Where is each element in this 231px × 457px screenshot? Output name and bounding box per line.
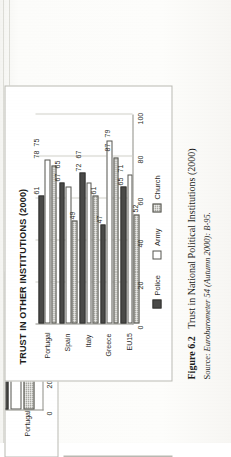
chart-legend: Police Army Church [152,175,161,308]
bar-army-spain [65,186,71,323]
value-label-police-eu15: 65 [116,177,123,185]
bar-church-spain [71,220,77,323]
value-label-army-eu15: 71 [116,164,123,172]
bar-police-spain [59,182,65,323]
caption-figure-number: Figure 6.2 [185,336,196,379]
value-label-church-italy: 61 [89,186,96,194]
bar-army-eu15 [127,174,133,323]
category-label-portugal: Portugal [43,332,50,358]
bar-church-portugal [51,165,57,323]
axis-tick-100: 100 [136,112,143,124]
bar-police-italy [79,172,85,323]
category-label-italy: Italy [84,334,91,347]
legend-item-police: Police [152,275,161,308]
caption-source-line: Source: Eurobarometer 54 (Autumn 2000): … [201,79,211,379]
bar-church-italy [92,195,98,323]
figure-caption: Figure 6.2 Trust in National Political I… [185,79,211,379]
legend-label-police: Police [152,275,161,295]
bar-army-portugal [44,159,50,323]
legend-swatch-army-icon [152,250,161,259]
value-label-church-portugal: 75 [32,138,39,146]
chart-title: TRUST IN OTHER INSTITUTIONS (2000) [17,188,27,364]
value-label-police-italy: 72 [74,163,81,171]
value-label-police-spain: 67 [53,173,60,181]
bar-police-eu15 [120,186,126,323]
figure-panel-main: TRUST IN OTHER INSTITUTIONS (2000) [4,85,172,381]
bar-army-greece [106,140,112,323]
axis-tick-above-0: 0 [45,411,52,415]
caption-main-line: Figure 6.2 Trust in National Political I… [185,79,196,379]
axis-tick-60: 60 [136,197,143,205]
bar-church-eu15 [133,214,139,323]
plot-area-main [35,114,133,324]
value-label-police-greece: 47 [95,215,102,223]
category-label-greece: Greece [104,333,111,356]
axis-tick-20: 20 [136,281,143,289]
axis-tick-80: 80 [136,155,143,163]
legend-item-army: Army [152,228,161,259]
legend-swatch-police-icon [152,299,161,308]
axis-tick-40: 40 [136,239,143,247]
bar-police-portugal [38,195,44,323]
value-label-army-greece: 87 [103,143,110,151]
category-label-eu15: EU15 [125,332,132,350]
legend-swatch-church-icon [152,203,161,212]
category-label-above-portugal: Portugal [23,410,30,436]
value-label-army-portugal: 78 [32,150,39,158]
gridline [35,155,132,156]
value-label-army-spain: 65 [53,160,60,168]
legend-label-church: Church [152,175,161,199]
value-label-army-italy: 67 [74,150,81,158]
caption-title: Trust in National Political Institutions… [185,148,196,328]
category-label-spain: Spain [63,333,70,351]
legend-item-church: Church [152,175,161,212]
bar-army-italy [86,182,92,323]
caption-source-text: Eurobarometer 54 (Autumn 2000): B-95. [201,212,211,351]
value-label-police-portugal: 61 [32,186,39,194]
axis-tick-0: 0 [136,325,143,329]
value-label-church-greece: 79 [103,129,110,137]
value-label-church-spain: 49 [68,211,75,219]
legend-label-army: Army [152,228,161,246]
bar-police-greece [100,224,106,323]
gridline [35,113,132,114]
caption-source-label: Source: [201,353,211,379]
